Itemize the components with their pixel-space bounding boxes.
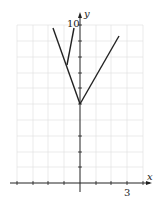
left-branch bbox=[53, 28, 80, 104]
y-label: y bbox=[83, 8, 90, 19]
y-tick-label: 10 bbox=[67, 18, 80, 29]
inner-segment bbox=[67, 28, 74, 65]
plot-lines bbox=[53, 28, 119, 104]
right-branch bbox=[80, 36, 119, 104]
x-label: x bbox=[147, 171, 153, 182]
x-tick-label: 3 bbox=[124, 187, 130, 198]
graph: y x 10 3 bbox=[0, 0, 163, 200]
